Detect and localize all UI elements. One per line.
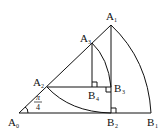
svg-text:2: 2 [41, 83, 44, 89]
right-angle-mark-B3 [106, 87, 111, 92]
svg-text:B: B [88, 89, 95, 101]
svg-text:A: A [106, 10, 114, 22]
right-angle-mark-B2 [111, 108, 116, 113]
angle-label-denominator: 4 [36, 103, 40, 112]
svg-text:B: B [107, 116, 114, 128]
label-B4: B 4 [88, 89, 99, 102]
svg-text:B: B [114, 82, 121, 94]
label-B3: B 3 [114, 82, 125, 95]
svg-text:B: B [147, 116, 154, 128]
svg-text:A: A [80, 32, 88, 44]
svg-text:4: 4 [96, 96, 99, 102]
arc-A3-B3 [92, 43, 111, 87]
svg-text:0: 0 [16, 123, 19, 129]
geometry-diagram: π 4 A 0 A 1 A 2 A 3 B 1 B 2 B 3 B 4 [0, 0, 167, 136]
arc-A2-B2 [47, 87, 111, 113]
svg-text:2: 2 [115, 123, 118, 129]
arc-A1-B1 [111, 25, 151, 113]
angle-label-numerator: π [36, 93, 41, 102]
label-A0: A 0 [8, 116, 19, 129]
label-A3: A 3 [80, 32, 91, 45]
svg-text:1: 1 [155, 123, 158, 129]
label-B1: B 1 [147, 116, 158, 129]
svg-text:1: 1 [114, 17, 117, 23]
right-angle-mark-B4 [92, 82, 97, 87]
angle-arc-A0 [25, 107, 28, 113]
label-A2: A 2 [33, 76, 44, 89]
label-A1: A 1 [106, 10, 117, 23]
label-B2: B 2 [107, 116, 118, 129]
svg-text:A: A [8, 116, 16, 128]
svg-text:3: 3 [88, 39, 91, 45]
svg-text:3: 3 [122, 89, 125, 95]
svg-text:A: A [33, 76, 41, 88]
